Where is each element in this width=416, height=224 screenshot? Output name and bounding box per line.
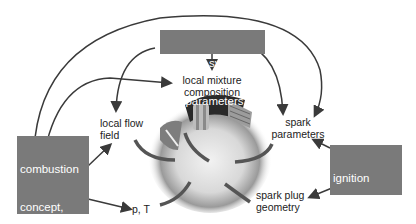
spark-plug-line-2: geometry — [256, 201, 326, 213]
spark-params-line-1: spark — [266, 116, 330, 128]
injection-line-1: Injection system — [163, 57, 262, 70]
mixture-line-1: local mixture — [174, 74, 250, 86]
injection-system-box: Injection system and parameters — [160, 30, 265, 54]
local-flow-field-label: local flow field — [100, 117, 160, 141]
combustion-line-1: combustion — [20, 163, 86, 176]
combustion-concept-box: combustion concept, compr. ratio speed, … — [17, 136, 89, 214]
combustion-line-2: concept, — [20, 201, 86, 214]
diagram-canvas: Injection system and parameters combusti… — [0, 0, 416, 224]
mixture-line-2: composition — [174, 86, 250, 98]
spark-plug-geometry-label: spark plug geometry — [256, 189, 326, 213]
ignition-line-2: concept — [333, 210, 399, 223]
spark-plug-line-1: spark plug — [256, 189, 326, 201]
flow-line-1: local flow — [100, 117, 160, 129]
pressure-temperature-label: p, T — [132, 203, 150, 215]
flow-line-2: field — [100, 129, 160, 141]
ignition-concept-box: ignition concept (TCI, Corona, Laser,...… — [330, 145, 402, 195]
spark-parameters-label: spark parameters — [266, 116, 330, 140]
ignition-line-1: ignition — [333, 172, 399, 185]
spark-params-line-2: parameters — [266, 128, 330, 140]
local-mixture-label: local mixture composition — [174, 74, 250, 98]
